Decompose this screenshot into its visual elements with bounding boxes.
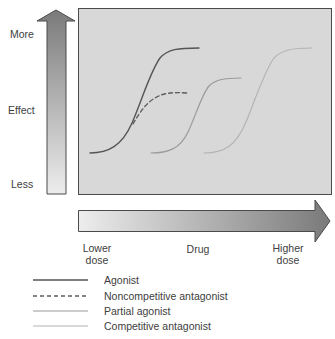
legend-label-competitive-antagonist: Competitive antagonist: [104, 320, 211, 332]
dose-response-figure: [0, 0, 335, 339]
effect-title-label: Effect: [8, 104, 35, 116]
legend-label-partial-agonist: Partial agonist: [104, 305, 171, 317]
effect-more-label: More: [10, 28, 34, 40]
lower-dose-label: Lower dose: [80, 242, 114, 266]
effect-arrow: [37, 10, 75, 194]
legend-label-agonist: Agonist: [104, 274, 139, 286]
effect-less-label: Less: [11, 178, 33, 190]
legend-lines: [33, 280, 88, 326]
chart-panel: [79, 9, 332, 195]
dose-arrow: [79, 200, 331, 242]
drug-title-label: Drug: [178, 243, 218, 255]
higher-dose-label: Higher dose: [268, 242, 308, 266]
legend-label-noncompetitive-antagonist: Noncompetitive antagonist: [104, 290, 228, 302]
